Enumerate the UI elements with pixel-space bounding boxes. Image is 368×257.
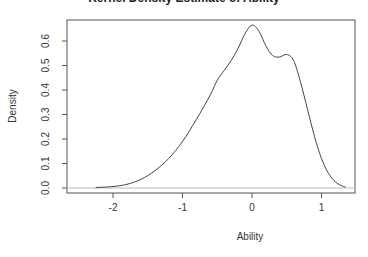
y-tick-label: 0.4 xyxy=(40,83,51,97)
x-axis-label: Ability xyxy=(237,231,264,242)
plot-frame xyxy=(67,20,355,193)
y-tick-label: 0.2 xyxy=(40,132,51,146)
density-chart: 0.00.10.20.30.40.50.6-2-101AbilityDensit… xyxy=(0,0,368,257)
x-tick-label: 0 xyxy=(249,202,255,213)
y-tick-label: 0.1 xyxy=(40,156,51,170)
x-tick-label: -2 xyxy=(109,202,118,213)
y-tick-label: 0.6 xyxy=(40,34,51,48)
x-tick-label: -1 xyxy=(178,202,187,213)
y-tick-label: 0.0 xyxy=(40,181,51,195)
y-tick-label: 0.3 xyxy=(40,107,51,121)
x-tick-label: 1 xyxy=(319,202,325,213)
density-curve xyxy=(96,25,346,187)
y-tick-label: 0.5 xyxy=(40,58,51,72)
y-axis-label: Density xyxy=(7,89,18,122)
